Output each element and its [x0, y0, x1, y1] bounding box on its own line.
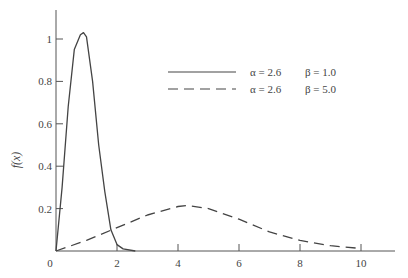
- series-line-beta-5: [56, 205, 361, 251]
- legend-alpha-1: α = 2.6: [250, 66, 282, 78]
- x-tick-label: 10: [356, 257, 368, 269]
- x-ticks: 0246810: [47, 244, 367, 269]
- y-ticks: 0.20.40.60.81: [38, 33, 63, 215]
- legend-beta-1: β = 1.0: [305, 66, 337, 78]
- y-tick-label: 0.2: [38, 203, 52, 215]
- x-tick-label: 2: [114, 257, 120, 269]
- legend-alpha-2: α = 2.6: [250, 83, 282, 95]
- legend-beta-2: β = 5.0: [305, 83, 337, 95]
- legend: α = 2.6 β = 1.0 α = 2.6 β = 5.0: [168, 66, 337, 95]
- y-tick-label: 0.4: [38, 160, 52, 172]
- chart: 0246810 0.20.40.60.81 f(x) α = 2.6 β = 1…: [0, 0, 408, 278]
- x-tick-label: 8: [297, 257, 303, 269]
- y-axis-label: f(x): [9, 152, 23, 169]
- y-tick-label: 0.8: [38, 75, 52, 87]
- y-tick-label: 0.6: [38, 118, 52, 130]
- x-tick-label: 4: [175, 257, 181, 269]
- x-tick-label: 6: [236, 257, 242, 269]
- y-tick-label: 1: [47, 33, 53, 45]
- x-tick-label: 0: [47, 257, 53, 269]
- series-line-beta-1: [56, 33, 135, 251]
